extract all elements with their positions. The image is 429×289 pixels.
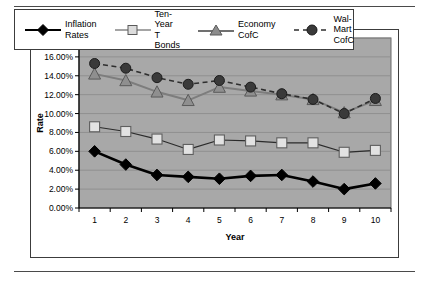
y-tick-label: 4.00%	[49, 165, 74, 175]
x-tick-label: 1	[92, 215, 97, 225]
y-tick-label: 2.00%	[49, 184, 74, 194]
chart-legend: Inflation Rates Ten-Year T Bonds Economy…	[14, 9, 354, 50]
x-axis-title: Year	[225, 232, 245, 242]
x-tick-label: 3	[155, 215, 160, 225]
x-tick-label: 8	[311, 215, 316, 225]
bottom-horizontal-rule	[14, 271, 415, 272]
legend-label-wal-mart-cofc: Wal-Mart CofC	[334, 14, 355, 46]
data-point	[277, 89, 287, 99]
y-tick-label: 14.00%	[44, 71, 73, 81]
y-tick-label: 6.00%	[49, 146, 74, 156]
x-tick-label: 10	[371, 215, 381, 225]
legend-item-inflation-rates: Inflation Rates	[22, 19, 99, 40]
x-tick-label: 4	[186, 215, 191, 225]
x-tick-label: 9	[342, 215, 347, 225]
x-tick-label: 6	[248, 215, 253, 225]
data-point	[183, 79, 193, 89]
data-point	[90, 122, 100, 132]
legend-item-economy-cofc: Economy CofC	[195, 19, 278, 40]
diamond-marker-icon	[24, 23, 62, 37]
y-axis-title: Rate	[35, 113, 45, 133]
data-point	[339, 109, 349, 119]
chart-screenshot: 0.00%2.00%4.00%6.00%8.00%10.00%12.00%14.…	[0, 0, 429, 289]
data-point	[121, 63, 131, 73]
square-marker-icon	[114, 23, 152, 37]
data-point	[339, 147, 349, 157]
legend-label-ten-year-t-bonds: Ten-Year T Bonds	[155, 9, 181, 51]
y-tick-label: 16.00%	[44, 52, 73, 62]
data-point	[308, 94, 318, 104]
data-point	[121, 127, 131, 137]
circle-marker-icon	[293, 23, 331, 37]
data-point	[214, 135, 224, 145]
data-point	[246, 82, 256, 92]
legend-item-ten-year-t-bonds: Ten-Year T Bonds	[112, 9, 183, 51]
line-chart: 0.00%2.00%4.00%6.00%8.00%10.00%12.00%14.…	[31, 30, 400, 259]
y-tick-label: 0.00%	[49, 203, 74, 213]
triangle-marker-icon	[197, 23, 235, 37]
data-point	[277, 138, 287, 148]
data-point	[308, 138, 318, 148]
x-tick-label: 5	[217, 215, 222, 225]
chart-plot-area: 0.00%2.00%4.00%6.00%8.00%10.00%12.00%14.…	[31, 30, 400, 259]
data-point	[183, 144, 193, 154]
top-horizontal-rule	[14, 6, 415, 7]
y-tick-label: 10.00%	[44, 109, 73, 119]
data-point	[214, 76, 224, 86]
legend-label-economy-cofc: Economy CofC	[238, 19, 276, 40]
y-tick-label: 8.00%	[49, 127, 74, 137]
x-tick-label: 2	[123, 215, 128, 225]
legend-label-inflation-rates: Inflation Rates	[65, 19, 97, 40]
x-tick-label: 7	[279, 215, 284, 225]
data-point	[246, 136, 256, 146]
data-point	[152, 134, 162, 144]
legend-item-wal-mart-cofc: Wal-Mart CofC	[291, 14, 357, 46]
y-tick-label: 12.00%	[44, 90, 73, 100]
data-point	[370, 93, 380, 103]
data-point	[90, 59, 100, 69]
data-point	[152, 73, 162, 83]
figure-frame: 0.00%2.00%4.00%6.00%8.00%10.00%12.00%14.…	[30, 29, 399, 258]
data-point	[370, 145, 380, 155]
